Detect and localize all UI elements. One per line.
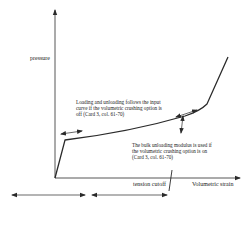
- loading-double-arrow: [61, 131, 82, 134]
- x-axis-label: Volumetric strain: [192, 181, 233, 187]
- tension-cutoff-label: tension cutoff: [133, 181, 166, 187]
- loading-note: Loading and unloading follows the input …: [76, 99, 168, 117]
- unloading-note: The bulk unloading modulus is used if th…: [132, 142, 216, 160]
- y-axis-label: pressure: [30, 55, 50, 61]
- tension-cutoff-marker: [169, 170, 172, 191]
- unloading-vertical-arrow: [181, 116, 183, 133]
